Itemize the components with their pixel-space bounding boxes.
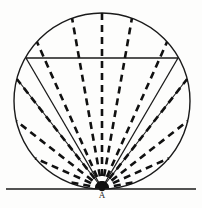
figure-canvas: A [0,0,202,208]
dashed-ray-8 [37,42,102,188]
geometry-diagram: A [0,0,202,208]
dashed-ray-4 [102,42,167,188]
dashed-ray-group [16,13,187,188]
tangent-point-label: A [99,190,106,200]
